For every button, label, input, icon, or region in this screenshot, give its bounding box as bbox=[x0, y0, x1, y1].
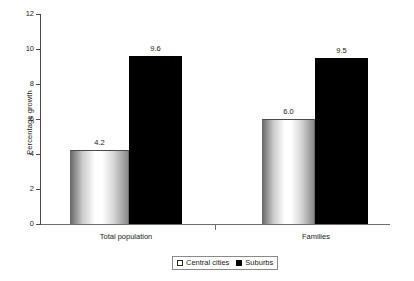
x-axis-tick-middle bbox=[215, 225, 216, 230]
x-axis-category-total-population: Total population bbox=[66, 232, 186, 241]
bar-families-central-cities bbox=[262, 119, 315, 224]
data-label-total-population-central-cities: 4.2 bbox=[70, 139, 129, 147]
open-square-icon bbox=[177, 260, 183, 266]
bar-families-suburbs bbox=[315, 58, 368, 224]
bar-chart: Percentage growth 12 10 8 6 4 2 0 bbox=[0, 0, 414, 281]
legend-label-suburbs: Suburbs bbox=[245, 259, 273, 267]
data-label-total-population-suburbs: 9.6 bbox=[129, 45, 182, 53]
bar-total-population-central-cities bbox=[70, 150, 129, 224]
data-label-families-central-cities: 6.0 bbox=[262, 108, 315, 116]
legend-item-central-cities: Central cities bbox=[177, 259, 229, 267]
legend: Central cities Suburbs bbox=[172, 256, 278, 270]
legend-item-suburbs: Suburbs bbox=[236, 259, 273, 267]
legend-label-central-cities: Central cities bbox=[186, 259, 229, 267]
bar-total-population-suburbs bbox=[129, 56, 182, 224]
filled-square-icon bbox=[236, 260, 242, 266]
data-label-families-suburbs: 9.5 bbox=[315, 47, 368, 55]
x-axis-category-families: Families bbox=[256, 232, 376, 241]
y-tick-mark-0 bbox=[36, 224, 41, 225]
bars-layer bbox=[0, 0, 414, 224]
